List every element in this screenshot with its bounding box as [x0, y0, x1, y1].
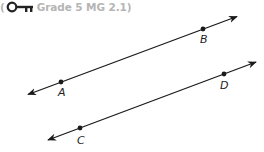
point-d [222, 72, 227, 77]
label-b: B [200, 33, 208, 46]
label-d: D [220, 79, 228, 92]
point-a [59, 80, 64, 85]
parallel-lines-diagram: A B C D [0, 0, 264, 152]
label-c: C [77, 134, 85, 147]
point-c [78, 126, 83, 131]
point-b [201, 27, 206, 32]
label-a: A [57, 86, 66, 99]
